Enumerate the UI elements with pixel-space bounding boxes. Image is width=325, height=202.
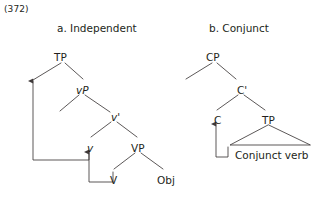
node-v-bar: v' xyxy=(111,112,120,123)
movement-arrow-verb-to-c xyxy=(216,124,228,157)
node-cp: CP xyxy=(206,52,220,63)
node-tp-right: TP xyxy=(262,115,275,126)
branch-vbar-right xyxy=(117,122,137,137)
branch-cp-right xyxy=(217,63,236,79)
branch-vp-big-right xyxy=(141,153,163,169)
node-c: C xyxy=(214,115,221,126)
branch-cbar-left xyxy=(217,95,238,110)
branch-vp-big-left xyxy=(114,153,135,169)
node-v-small: v xyxy=(87,143,93,154)
tree-branch-lines xyxy=(0,0,325,202)
node-tp: TP xyxy=(54,52,67,63)
branch-vp-right xyxy=(85,95,110,112)
node-v-big: V xyxy=(110,175,117,186)
node-vp-big: VP xyxy=(131,143,145,154)
branch-vp-left xyxy=(60,95,79,111)
branch-vbar-left xyxy=(91,122,111,137)
node-vp-small: vP xyxy=(76,85,89,96)
branch-tp-right xyxy=(65,63,83,79)
node-obj: Obj xyxy=(157,175,175,186)
triangle-tp-conjunct-verb xyxy=(230,125,310,145)
branch-cbar-right xyxy=(244,95,265,110)
syntax-tree-figure: (372) a. Independent b. Conjunct xyxy=(0,0,325,202)
node-c-bar: C' xyxy=(237,85,247,96)
branch-tp-left xyxy=(33,63,61,80)
branch-cp-left xyxy=(186,63,212,79)
leaf-conjunct-verb: Conjunct verb xyxy=(235,150,309,161)
